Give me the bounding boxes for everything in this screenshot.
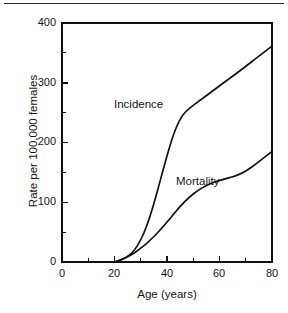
x-tick-label-40: 40: [153, 268, 181, 279]
x-tick-label-80: 80: [258, 268, 286, 279]
x-tick-label-20: 20: [100, 268, 128, 279]
chart-figure: 0 100 200 300 400 0 20 40 60 80 Age (yea…: [0, 0, 288, 313]
x-tick-label-60: 60: [205, 268, 233, 279]
y-axis-label: Rate per 100,000 females: [27, 46, 39, 236]
x-axis-major-ticks: [62, 256, 272, 262]
x-tick-label-0: 0: [48, 268, 76, 279]
series-line-incidence: [115, 46, 273, 262]
plot-frame: [62, 23, 272, 262]
x-axis-label: Age (years): [62, 288, 272, 300]
y-axis-major-ticks: [62, 23, 68, 262]
series-label-incidence: Incidence: [114, 98, 163, 110]
series-label-mortality: Mortality: [176, 175, 219, 187]
y-tick-label-400: 400: [24, 17, 56, 28]
y-tick-label-0: 0: [24, 256, 56, 267]
